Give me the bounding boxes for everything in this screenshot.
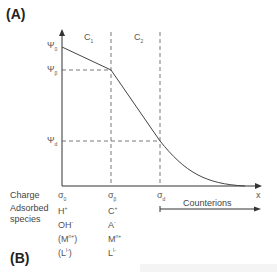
species-l-beta: Ll-: [108, 245, 121, 259]
y-axis-arrow-icon: [59, 29, 65, 36]
psi-d-label: Ψd: [47, 135, 57, 147]
sigma-beta-label: σβ: [108, 190, 116, 202]
sigma-d-label: σd: [157, 190, 165, 202]
species-h: H+: [58, 203, 77, 217]
region-c2-label: C2: [134, 32, 143, 44]
species-m: (Mn+): [58, 231, 77, 245]
charge-label: Charge: [10, 190, 40, 200]
x-axis-arrow-icon: [255, 183, 262, 189]
species-c: C+: [108, 203, 121, 217]
panel-b-image-edge: [140, 264, 277, 272]
sigma0-label: σ0: [58, 190, 66, 202]
species-oh: OH-: [58, 217, 77, 231]
counterions-label: Counterions: [183, 198, 232, 208]
psi-beta-label: Ψβ: [47, 64, 57, 76]
species-a: A-: [108, 217, 121, 231]
adsorbed-col-beta: C+ A- Mn+ Ll-: [108, 203, 121, 259]
species-l: (Ll-): [58, 245, 77, 259]
panel-label-b: (B): [10, 250, 29, 266]
adsorbed-col-0: H+ OH- (Mn+) (Ll-): [58, 203, 77, 259]
region-c1-label: C1: [84, 32, 93, 44]
psi0-label: Ψ0: [47, 40, 57, 52]
x-axis-label: x: [256, 190, 261, 200]
counterions-arrow-head-icon: [254, 207, 261, 212]
potential-curve-diffuse: [160, 141, 245, 186]
species-m-beta: Mn+: [108, 231, 121, 245]
adsorbed-species-label: Adsorbed species: [10, 203, 49, 225]
